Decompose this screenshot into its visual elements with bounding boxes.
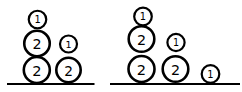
left-group-stack-2-2-1-label: 1 (34, 14, 40, 25)
stacked-circles-figure: 22121221211 (0, 0, 242, 92)
right-group-stack-2-2-1-label: 1 (140, 11, 146, 22)
right-group-stack-2-2-1-label: 2 (137, 32, 146, 48)
right-group-stack-2-2-1-label: 2 (137, 61, 146, 78)
left-group-stack-2-1-label: 1 (65, 39, 71, 50)
diagram-canvas: 22121221211 (0, 0, 242, 92)
right-group-stack-2-1-label: 2 (171, 62, 180, 78)
left-group-stack-2-2-1-label: 2 (32, 36, 41, 52)
left-group-stack-2-2-1-label: 2 (32, 62, 41, 79)
right-group-stack-2-1-label: 1 (173, 37, 179, 48)
right-group-stack-1-label: 1 (207, 69, 213, 80)
left-group-stack-2-1-label: 2 (64, 63, 73, 79)
